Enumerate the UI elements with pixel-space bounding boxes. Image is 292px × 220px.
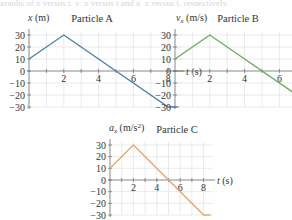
chart-particle-a: 3020100−10−20−302468t (s)x (m)Particle A <box>9 12 202 113</box>
y-tick-label: −10 <box>155 78 171 89</box>
y-tick-label: 20 <box>15 42 25 53</box>
x-tick-label: 8 <box>201 182 206 193</box>
y-axis-label: vx (m/s) <box>176 12 207 25</box>
y-tick-label: −20 <box>90 198 106 209</box>
y-tick-label: −20 <box>9 90 25 101</box>
y-tick-label: −30 <box>9 102 25 113</box>
x-tick-label: 2 <box>61 73 66 84</box>
y-tick-label: 10 <box>161 54 171 65</box>
chart-title: Particle C <box>156 124 198 135</box>
y-tick-label: −10 <box>90 186 106 197</box>
y-tick-label: 0 <box>101 175 106 186</box>
chart-particle-b: 3020100−10−20−302468t (s)vx (m/s)Particl… <box>155 12 292 113</box>
y-tick-label: 0 <box>166 66 171 77</box>
y-tick-label: −30 <box>90 210 106 220</box>
chart-title: Particle B <box>217 13 259 24</box>
x-tick-label: 2 <box>131 182 136 193</box>
x-tick-label: 2 <box>207 73 212 84</box>
y-axis-label: ax (m/s2) <box>109 122 144 135</box>
charts-canvas: 3020100−10−20−302468t (s)x (m)Particle A… <box>0 0 292 219</box>
chart-particle-c: 3020100−10−20−302468t (s)ax (m/s2)Partic… <box>90 122 232 219</box>
chart-title: Particle A <box>71 13 113 24</box>
y-tick-label: 0 <box>20 66 25 77</box>
x-tick-label: 4 <box>154 182 159 193</box>
y-axis-label: x (m) <box>27 12 49 24</box>
y-tick-label: 30 <box>96 140 106 151</box>
y-tick-label: 20 <box>96 151 106 162</box>
x-axis-label: t (s) <box>186 66 202 78</box>
y-tick-label: 30 <box>15 30 25 41</box>
y-tick-label: 20 <box>161 42 171 53</box>
y-tick-label: −10 <box>9 78 25 89</box>
y-tick-label: −20 <box>155 90 171 101</box>
y-tick-label: −30 <box>155 102 171 113</box>
y-tick-label: 10 <box>15 54 25 65</box>
x-tick-label: 4 <box>96 73 101 84</box>
x-tick-label: 4 <box>242 73 247 84</box>
y-tick-label: 10 <box>96 163 106 174</box>
y-tick-label: 30 <box>161 30 171 41</box>
x-axis-label: t (s) <box>217 175 233 187</box>
